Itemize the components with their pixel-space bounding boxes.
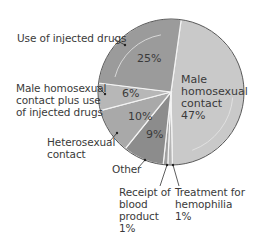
slice-label-25: 25% (137, 53, 161, 65)
label-heterosexual-contact: Heterosexual contact (47, 136, 115, 160)
label-male-homosexual-plus-drugs: Male homosexual contact plus use of inje… (16, 82, 106, 118)
slice-label-6: 6% (122, 88, 139, 100)
slice-label-9: 9% (146, 129, 163, 141)
label-other: Other (112, 163, 141, 175)
label-receipt-of-blood-product: Receipt of blood product 1% (119, 186, 171, 234)
slice-label-male-homosexual: Male homosexual contact 47% (181, 74, 248, 122)
label-treatment-for-hemophilia: Treatment for hemophilia 1% (175, 186, 245, 222)
label-use-of-injected-drugs: Use of injected drugs (17, 32, 126, 44)
slice-label-10: 10% (128, 111, 152, 123)
